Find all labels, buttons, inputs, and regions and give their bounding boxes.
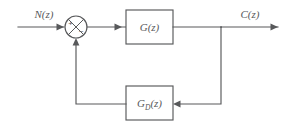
input-signal-label: N(z) — [34, 8, 54, 21]
input-arrowhead-icon — [57, 24, 65, 31]
error-wire-group — [87, 24, 126, 31]
block-diagram-canvas: + − G(z) GD(z) — [0, 0, 284, 135]
summing-junction-plus-sign: + — [68, 19, 73, 28]
feedback-wire-left — [76, 42, 126, 104]
input-wire-group — [18, 24, 64, 31]
feedback-block-gd: GD(z) — [126, 86, 173, 120]
block-diagram-svg: + − G(z) GD(z) — [0, 0, 284, 135]
feedback-wire-left-group — [73, 38, 126, 104]
summing-junction: + − — [65, 16, 87, 38]
feedback-block-label-args: (z) — [150, 97, 162, 110]
summing-junction-minus-sign: − — [79, 27, 84, 36]
output-arrowhead-icon — [271, 24, 279, 31]
feedback-right-arrowhead-icon — [173, 101, 181, 108]
forward-block-g: G(z) — [126, 10, 173, 44]
forward-block-label: G(z) — [140, 21, 160, 34]
feedback-wire-right — [177, 27, 221, 104]
output-wire-group — [173, 24, 278, 31]
feedback-up-arrowhead-icon — [73, 38, 80, 46]
feedback-block-label-main: G — [137, 97, 145, 109]
feedback-wire-right-group — [173, 27, 221, 107]
output-signal-label: C(z) — [241, 8, 260, 21]
error-arrowhead-icon — [115, 24, 123, 31]
